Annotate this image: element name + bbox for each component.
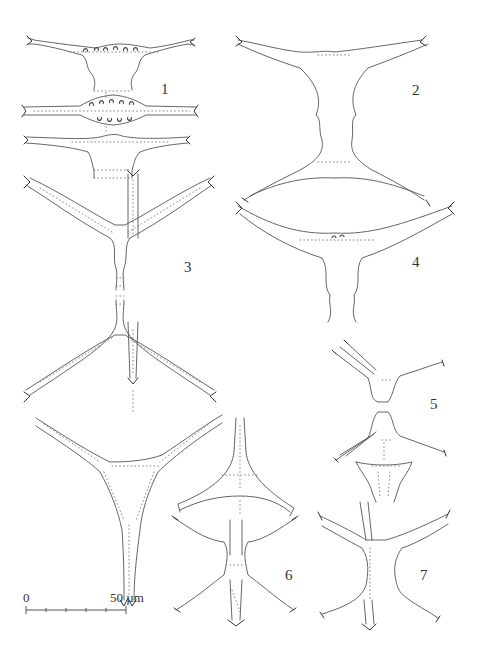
figure-1-drawing	[22, 36, 198, 178]
scale-bar	[26, 606, 126, 614]
figure-4-drawing	[236, 202, 454, 322]
figure-label-1: 1	[161, 82, 169, 97]
scale-bar-start-label: 0	[23, 591, 30, 604]
figure-2-drawing	[236, 36, 430, 206]
figure-label-3: 3	[184, 260, 192, 275]
figure-label-2: 2	[412, 83, 420, 98]
line-drawings	[0, 0, 480, 650]
figure-6-drawing	[172, 418, 298, 626]
figure-label-5: 5	[430, 397, 438, 412]
illustration-plate: 1 2 3 4 5 6 7 0 50 µm	[0, 0, 480, 650]
figure-5-drawing	[332, 340, 446, 502]
figure-label-6: 6	[285, 568, 293, 583]
scale-bar-end-label: 50 µm	[110, 591, 144, 604]
figure-label-4: 4	[412, 255, 420, 270]
figure-label-7: 7	[420, 568, 428, 583]
figure-7-drawing	[318, 502, 450, 630]
figure-3-drawing	[24, 170, 222, 606]
